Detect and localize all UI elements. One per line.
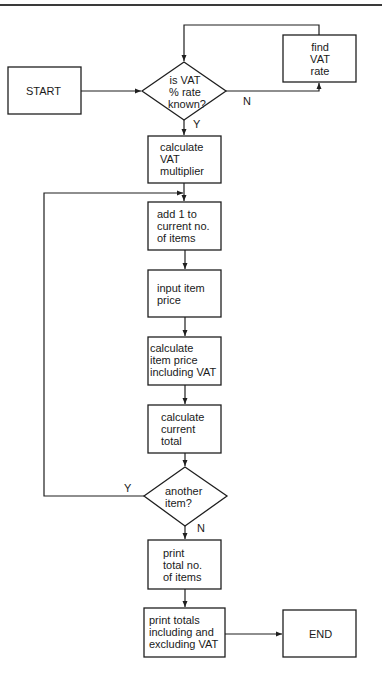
node-calc-total-label: calculatecurrenttotal (161, 411, 204, 447)
edge-vat-known-no (226, 83, 319, 91)
node-add-one-label: add 1 tocurrent no.of items (157, 208, 210, 244)
node-another-item-label: anotheritem? (165, 485, 202, 509)
node-print-totals-label: print totalsincluding andexcluding VAT (149, 614, 218, 650)
node-end-label: END (309, 628, 332, 640)
node-vat-known-label: is VAT% rateknown? (168, 74, 202, 110)
node-find-vat-label: findVATrate (300, 41, 340, 77)
edge-label-vat-known-yes: Y (193, 118, 200, 130)
edge-label-another-item-yes: Y (124, 482, 131, 494)
node-calc-item-price-label: calculateitem priceincluding VAT (150, 342, 216, 378)
node-calc-multiplier-label: calculateVATmultiplier (160, 141, 204, 177)
node-input-price-label: input itemprice (157, 282, 205, 306)
edge-label-another-item-no: N (197, 522, 205, 534)
node-print-count-label: printtotal no.of items (163, 547, 202, 583)
node-start-label: START (26, 85, 61, 97)
edge-label-vat-known-no: N (243, 95, 251, 107)
